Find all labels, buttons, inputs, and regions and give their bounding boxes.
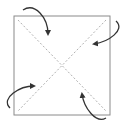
- origami-diagram: [0, 0, 124, 124]
- paper-square: [14, 16, 110, 115]
